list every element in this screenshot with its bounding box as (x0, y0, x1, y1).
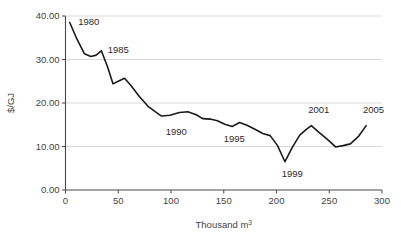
y-tick-label: 20.00 (36, 97, 60, 108)
x-tick-label: 50 (113, 195, 124, 206)
x-tick-label: 300 (374, 195, 390, 206)
y-tick-label: 40.00 (36, 10, 60, 21)
x-axis-title: Thousand m3 (196, 219, 253, 231)
x-tick-label: 200 (269, 195, 285, 206)
x-axis-title-superscript: 3 (248, 219, 252, 226)
chart-background (0, 0, 401, 246)
y-tick-label: 0.00 (41, 184, 60, 195)
year-label: 1995 (224, 133, 245, 144)
y-tick-label: 30.00 (36, 54, 60, 65)
x-tick-label: 150 (216, 195, 232, 206)
year-label: 2005 (363, 104, 384, 115)
x-tick-label: 100 (163, 195, 179, 206)
x-tick-label: 250 (321, 195, 337, 206)
chart-container: 0.0010.0020.0030.0040.00 050100150200250… (0, 0, 401, 246)
year-label: 1999 (282, 168, 303, 179)
year-label: 1985 (108, 44, 129, 55)
year-label: 1980 (78, 16, 99, 27)
y-tick-label: 10.00 (36, 141, 60, 152)
year-label: 2001 (308, 104, 329, 115)
line-chart: 0.0010.0020.0030.0040.00 050100150200250… (0, 0, 401, 246)
year-label: 1990 (166, 126, 187, 137)
x-tick-label: 0 (63, 195, 68, 206)
y-axis-title: $/GJ (5, 93, 16, 113)
